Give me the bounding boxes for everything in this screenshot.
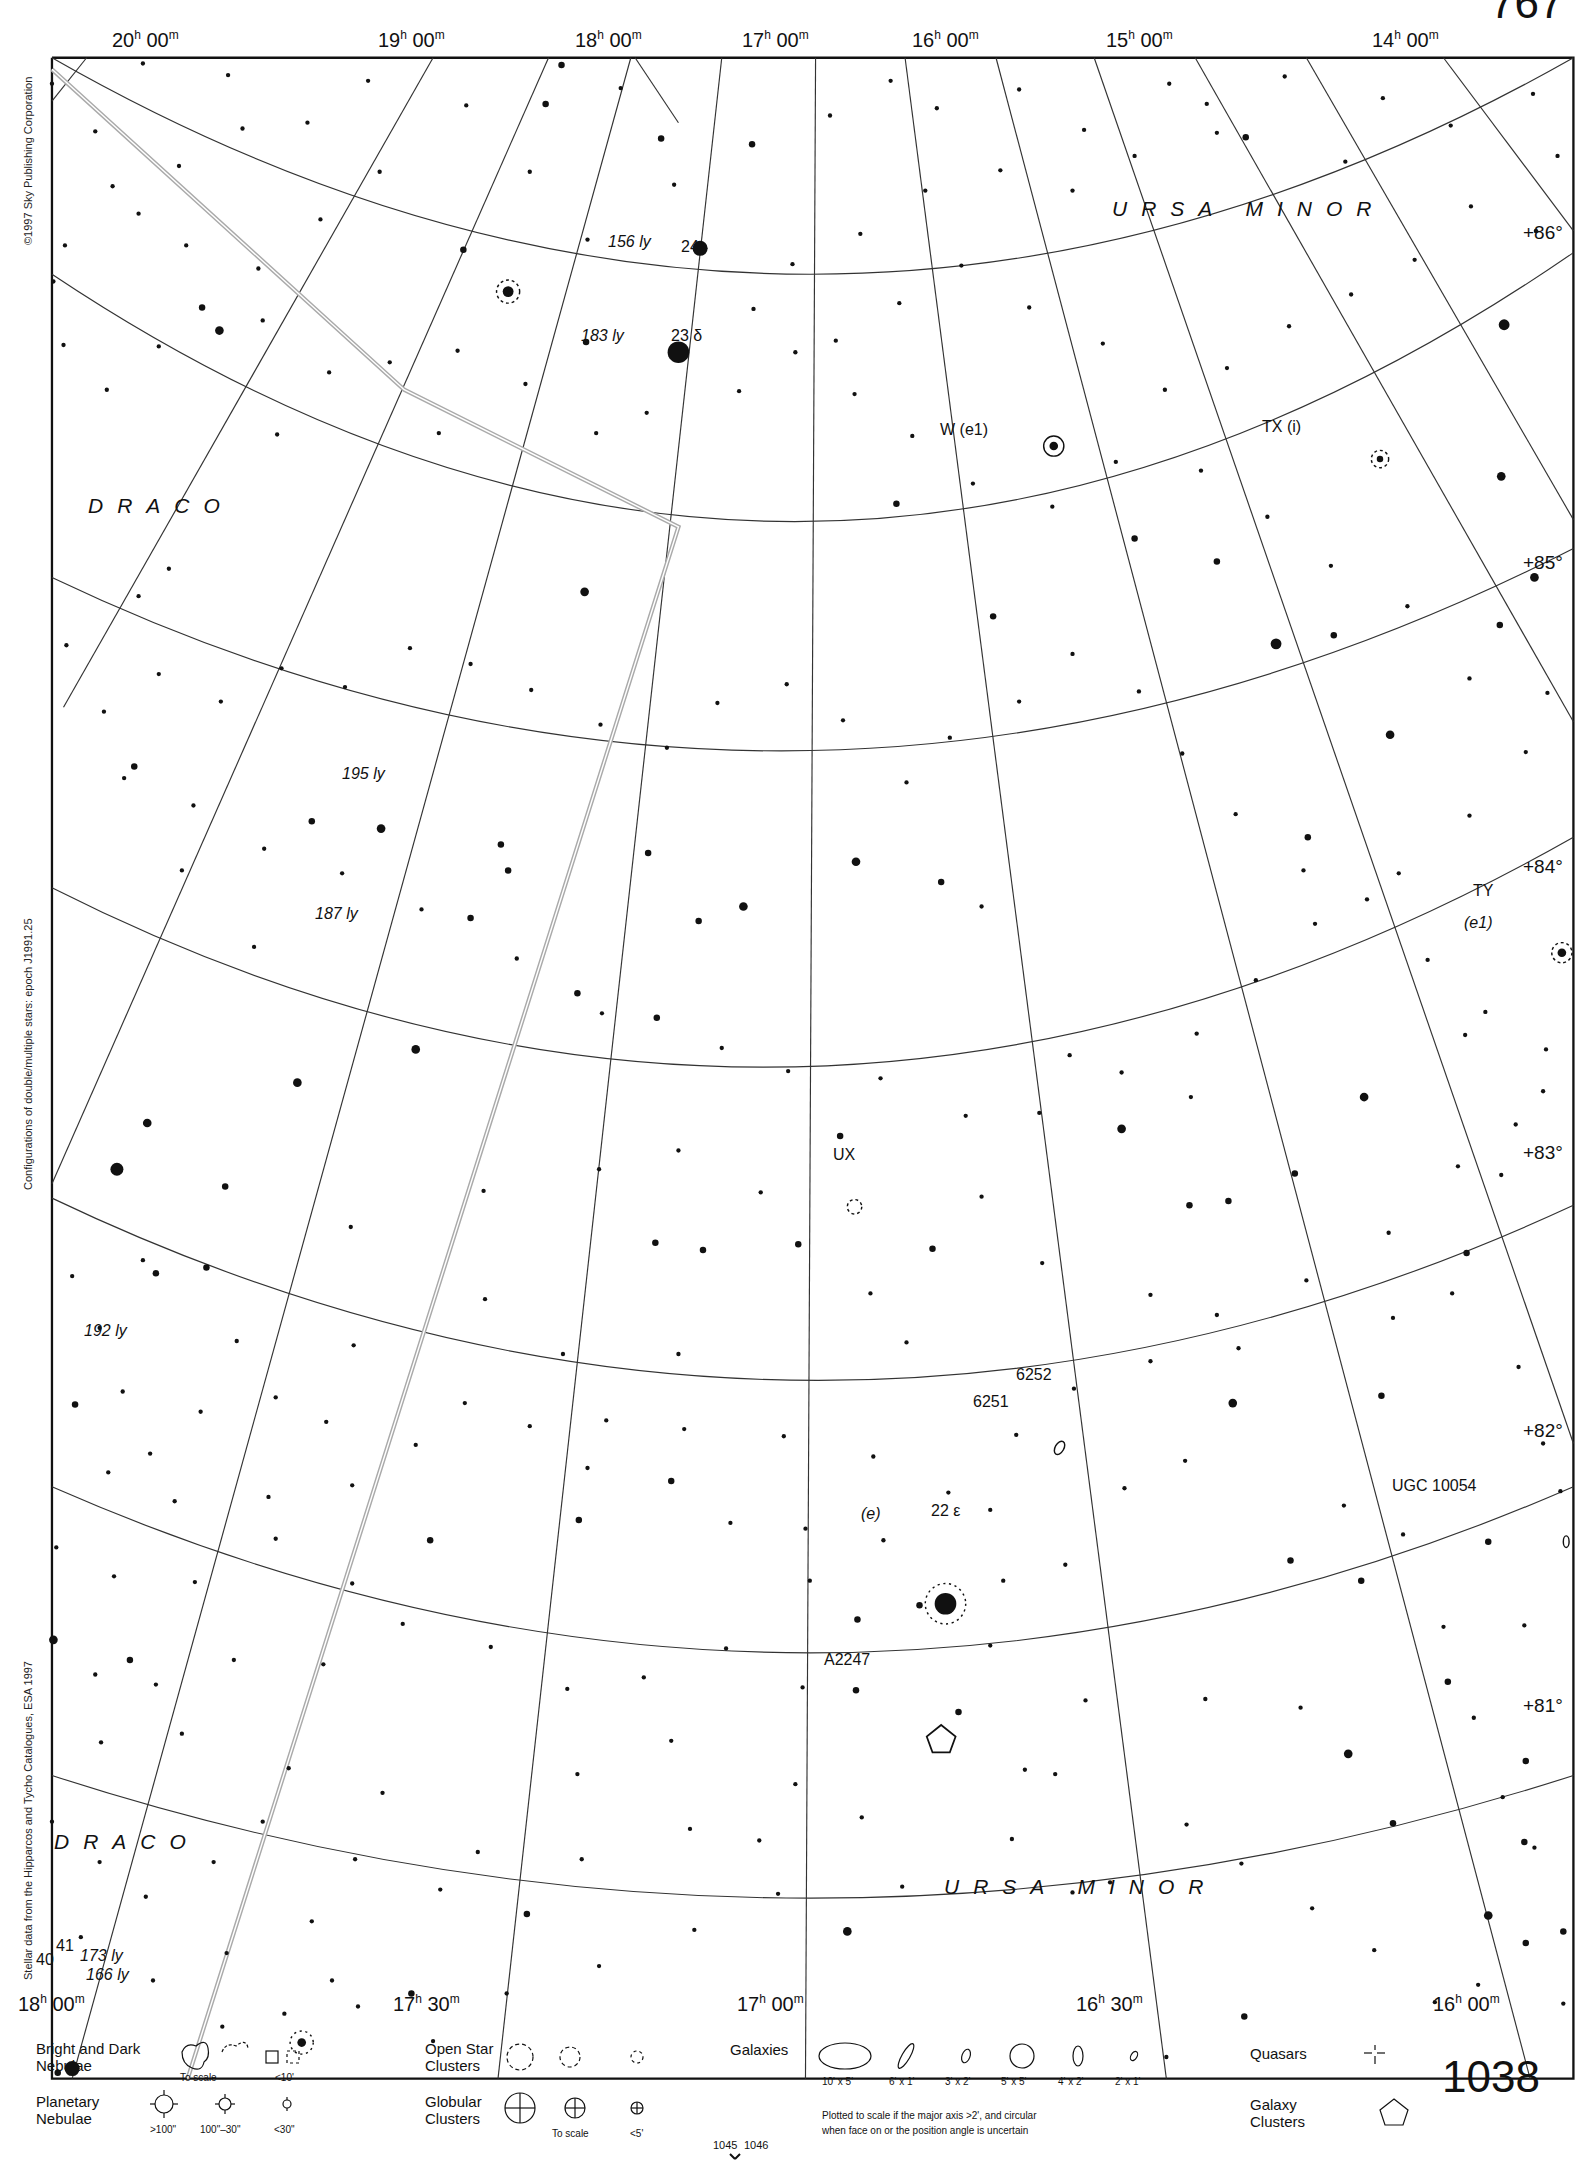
star <box>51 279 55 283</box>
star <box>1558 948 1567 957</box>
star <box>751 307 755 311</box>
star <box>672 183 676 187</box>
legend-galaxies-title: Galaxies <box>730 2041 788 2058</box>
star <box>351 1343 355 1347</box>
star <box>414 1443 418 1447</box>
galaxy-5x5-icon <box>1010 2044 1034 2068</box>
star <box>122 776 126 780</box>
galaxy-6x1-icon <box>896 2042 917 2070</box>
star <box>688 1827 692 1831</box>
star <box>1561 2001 1565 2005</box>
star <box>489 1645 493 1649</box>
star <box>324 1420 328 1424</box>
star <box>1516 1365 1520 1369</box>
star <box>594 431 598 435</box>
star <box>321 1662 325 1666</box>
star <box>1101 341 1105 345</box>
star <box>274 1395 278 1399</box>
star <box>946 1490 950 1494</box>
star <box>1241 2013 1247 2019</box>
star <box>1239 1861 1243 1865</box>
star <box>154 1682 158 1686</box>
star <box>330 1978 334 1982</box>
star <box>157 672 161 676</box>
star <box>695 918 701 924</box>
star <box>274 1537 278 1541</box>
star <box>50 82 54 86</box>
star <box>438 1887 442 1891</box>
star <box>1225 1198 1231 1204</box>
star <box>1027 305 1031 309</box>
star <box>904 780 908 784</box>
star <box>388 360 392 364</box>
star <box>1163 388 1167 392</box>
star <box>215 326 224 335</box>
star <box>157 344 161 348</box>
star <box>1017 699 1021 703</box>
star <box>318 217 322 221</box>
ra-label-bottom: 17h 30m <box>393 1992 460 2016</box>
legend-galaxy-size: 6' x 1' <box>889 2076 915 2087</box>
copyright-text: ©1997 Sky Publishing Corporation <box>22 77 34 245</box>
star <box>1463 1033 1467 1037</box>
star <box>481 1189 485 1193</box>
star <box>340 871 344 875</box>
star <box>1331 632 1337 638</box>
star <box>893 501 899 507</box>
ra-label-top: 17h 00m <box>742 28 809 52</box>
star <box>350 1581 354 1585</box>
star <box>1390 1820 1396 1826</box>
star <box>437 431 441 435</box>
star <box>203 1264 209 1270</box>
star <box>252 945 256 949</box>
star <box>676 1352 680 1356</box>
star <box>853 1687 859 1693</box>
star <box>668 1478 674 1484</box>
star <box>597 1167 601 1171</box>
star <box>529 688 533 692</box>
star <box>955 1709 961 1715</box>
dark-nebula-icon <box>222 2042 248 2052</box>
star <box>110 1163 123 1176</box>
star <box>1484 1911 1493 1920</box>
star <box>1184 1822 1188 1826</box>
star <box>665 746 669 750</box>
star <box>153 1270 159 1276</box>
adjacent-page-left[interactable]: 1045 <box>713 2139 737 2151</box>
star <box>1215 1313 1219 1317</box>
star <box>964 1114 968 1118</box>
star <box>1358 1577 1364 1583</box>
planetary-medium-icon <box>219 2098 231 2110</box>
star <box>167 567 171 571</box>
adjacent-page-arrow-icon <box>730 2154 740 2159</box>
star <box>1499 319 1510 330</box>
star <box>990 613 996 619</box>
star-label-40: 40 <box>36 1951 54 1969</box>
dec-label: +86° <box>1523 222 1563 244</box>
star <box>574 990 580 996</box>
star <box>1167 82 1171 86</box>
star <box>1283 74 1287 78</box>
star <box>211 1860 215 1864</box>
star <box>1378 1393 1384 1399</box>
star <box>1476 1983 1480 1987</box>
star <box>198 1410 202 1414</box>
star <box>1445 1678 1451 1684</box>
variable-star-label-w: W (e1) <box>940 421 988 439</box>
adjacent-page-right[interactable]: 1046 <box>744 2139 768 2151</box>
star <box>61 343 65 347</box>
page-number: 1038 <box>1442 2052 1540 2102</box>
star-label-delta: 23 δ <box>671 327 702 345</box>
star <box>464 103 468 107</box>
star <box>598 722 602 726</box>
star-label-epsilon: 22 ε <box>931 1502 960 1520</box>
variable-star-type-ty: (e1) <box>1464 914 1492 932</box>
star <box>860 1815 864 1819</box>
star <box>1497 622 1503 628</box>
star <box>401 1622 405 1626</box>
legend-planetary-title: Planetary Nebulae <box>36 2093 99 2127</box>
star <box>366 79 370 83</box>
star <box>136 594 140 598</box>
star <box>1541 1089 1545 1093</box>
star <box>240 126 244 130</box>
